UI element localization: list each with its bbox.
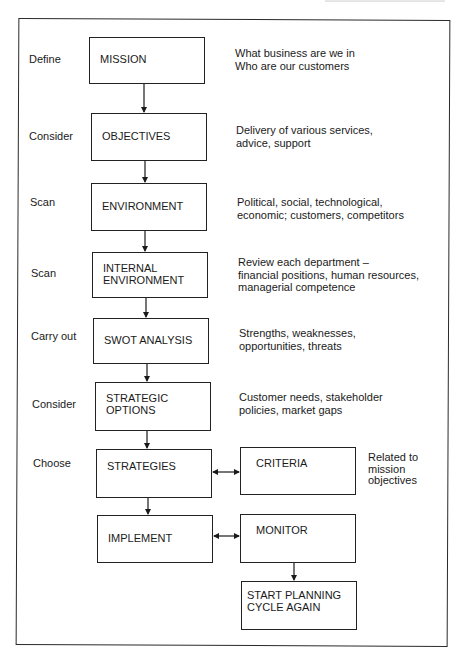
connector-arrows: [0, 0, 465, 663]
